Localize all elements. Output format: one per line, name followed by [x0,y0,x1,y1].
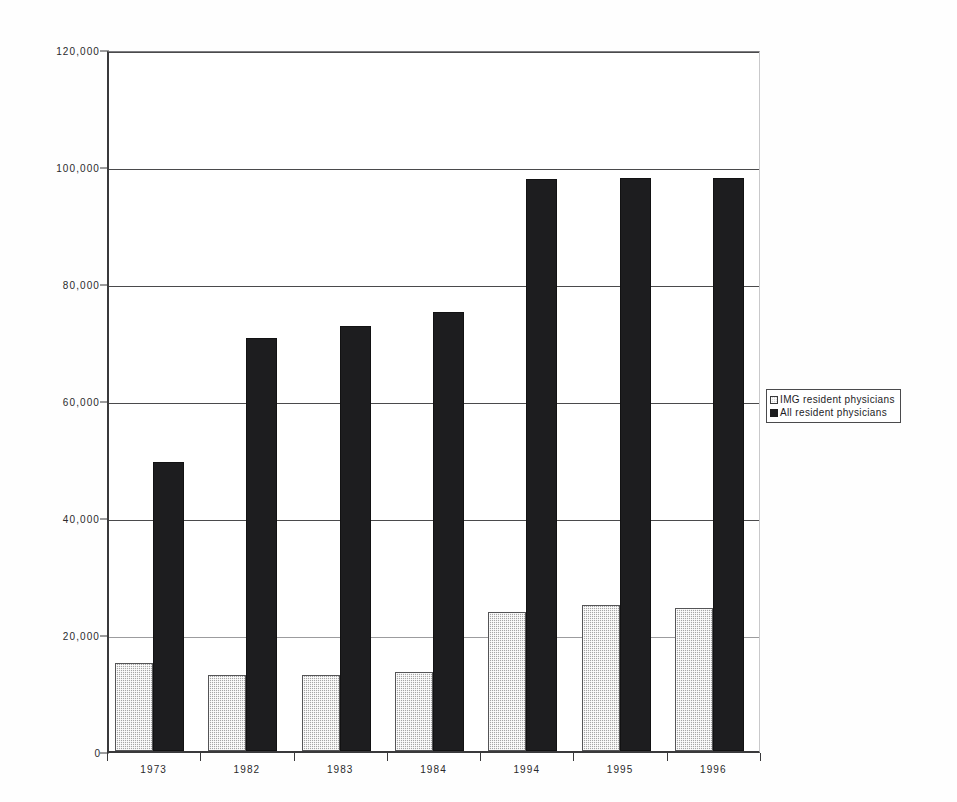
plot-area [107,51,760,753]
y-tick-label-80000: 80,000 [10,280,100,291]
x-tick-mark-5 [667,753,668,761]
y-tick-label-40000: 40,000 [10,514,100,525]
bar-img-1995 [582,605,620,751]
bar-all-1995 [620,178,651,751]
bar-all-1984 [433,312,464,751]
bar-chart: 020,00040,00060,00080,000100,000120,000 … [0,0,957,802]
x-tick-label-1995: 1995 [607,764,634,775]
x-tick-label-1996: 1996 [700,764,727,775]
legend-item-img: IMG resident physicians [770,393,895,406]
bar-all-1983 [340,326,371,751]
legend-item-all: All resident physicians [770,406,895,419]
bar-group-1995 [582,49,651,751]
x-tick-mark-0 [200,753,201,761]
x-tick-mark-4 [573,753,574,761]
x-tick-mark-6 [760,753,761,761]
y-tick-label-100000: 100,000 [10,163,100,174]
bar-img-1973 [115,663,153,751]
legend-label-img: IMG resident physicians [780,394,895,405]
bar-img-1996 [675,608,713,751]
bar-group-1996 [675,49,744,751]
x-tick-label-1982: 1982 [234,764,261,775]
bar-group-1994 [488,49,557,751]
legend-label-all: All resident physicians [780,407,887,418]
bar-group-1984 [395,49,464,751]
bar-img-1982 [208,675,246,751]
x-tick-label-1973: 1973 [140,764,167,775]
y-tick-label-60000: 60,000 [10,397,100,408]
bar-all-1982 [246,338,277,751]
bar-all-1996 [713,178,744,751]
y-axis: 020,00040,00060,00080,000100,000120,000 [0,0,100,802]
legend-swatch-all-icon [770,409,778,417]
chart-page: 020,00040,00060,00080,000100,000120,000 … [0,0,957,802]
x-tick-mark-1 [294,753,295,761]
legend-swatch-img-icon [770,396,778,404]
bar-all-1973 [153,462,184,751]
bar-group-1983 [302,49,371,751]
y-tick-label-20000: 20,000 [10,631,100,642]
bar-img-1983 [302,675,340,751]
y-tick-label-0: 0 [10,748,100,759]
bar-img-1984 [395,672,433,751]
x-tick-label-1983: 1983 [327,764,354,775]
x-tick-label-1994: 1994 [513,764,540,775]
bar-group-1973 [115,49,184,751]
bar-group-1982 [208,49,277,751]
x-tick-mark-origin [107,753,108,761]
x-tick-mark-3 [480,753,481,761]
x-tick-label-1984: 1984 [420,764,447,775]
chart-legend: IMG resident physicians All resident phy… [766,389,901,423]
bar-all-1994 [526,179,557,751]
y-tick-label-120000: 120,000 [10,46,100,57]
x-tick-mark-2 [387,753,388,761]
bar-img-1994 [488,612,526,751]
